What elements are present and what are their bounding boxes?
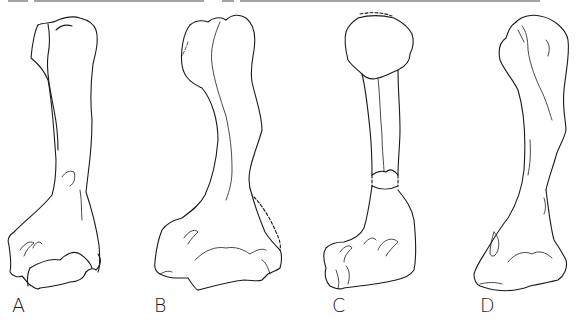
bone-a-drawing — [8, 17, 100, 289]
panel-label-c: C — [332, 296, 345, 315]
bone-d-drawing — [474, 15, 569, 291]
panel-label-a: A — [12, 296, 25, 315]
panel-label-d: D — [480, 296, 495, 315]
figure-canvas — [0, 0, 579, 322]
bone-c-drawing — [324, 13, 416, 289]
bone-b-drawing — [155, 15, 282, 290]
panel-label-b: B — [154, 296, 166, 315]
